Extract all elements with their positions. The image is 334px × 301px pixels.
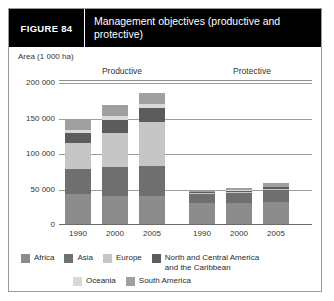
figure-title: Management objectives (productive and pr…	[85, 9, 321, 47]
y-axis-tick-label: 0	[9, 220, 55, 229]
legend-row: AfricaAsiaEuropeNorth and Central Americ…	[21, 253, 309, 272]
bar-segment	[102, 105, 128, 116]
bar-segment	[102, 120, 128, 133]
legend-swatch-icon	[152, 254, 161, 263]
legend-label: Oceania	[86, 276, 116, 286]
figure-container: FIGURE 84 Management objectives (product…	[8, 8, 322, 292]
bar-segment	[65, 143, 91, 169]
bar-segment	[102, 196, 128, 224]
gridline	[59, 83, 312, 84]
bar-productive-2005	[139, 93, 165, 224]
chart-plot: Area (1 000 ha) Productive Protective 05…	[9, 47, 321, 249]
x-axis-tick-label: 2005	[254, 229, 298, 238]
legend-label: North and Central Americaand the Caribbe…	[165, 253, 259, 272]
legend-swatch-icon	[21, 254, 30, 263]
legend-swatch-icon	[64, 254, 73, 263]
bar-segment	[189, 203, 215, 224]
bar-segment	[65, 169, 91, 195]
bar-segment	[226, 203, 252, 224]
bar-segment	[65, 133, 91, 143]
legend-label: South America	[139, 276, 191, 286]
bar-segment	[226, 193, 252, 203]
legend-item: Africa	[21, 253, 54, 263]
legend-item: Europe	[103, 253, 142, 263]
bar-protective-2005	[263, 183, 289, 224]
bar-segment	[102, 167, 128, 196]
legend-swatch-icon	[73, 277, 82, 286]
y-axis-tick-label: 200 000	[9, 78, 55, 87]
bar-productive-1990	[65, 119, 91, 224]
chart-legend: AfricaAsiaEuropeNorth and Central Americ…	[9, 253, 321, 290]
gridline	[59, 154, 312, 155]
group-separator-line	[59, 80, 312, 81]
group-label-protective: Protective	[215, 66, 289, 76]
figure-header: FIGURE 84 Management objectives (product…	[9, 9, 321, 47]
bar-segment	[139, 166, 165, 197]
gridline	[59, 119, 312, 120]
bar-segment	[263, 202, 289, 224]
legend-item: North and Central Americaand the Caribbe…	[152, 253, 259, 272]
legend-item: Oceania	[73, 276, 116, 286]
bar-protective-2000	[226, 188, 252, 224]
legend-item: Asia	[64, 253, 93, 263]
legend-row: OceaniaSouth America	[21, 276, 309, 286]
bar-segment	[139, 108, 165, 121]
bar-segment	[139, 196, 165, 224]
group-label-productive: Productive	[85, 66, 159, 76]
y-axis-tick-label: 150 000	[9, 114, 55, 123]
x-axis-tick-label: 2005	[130, 229, 174, 238]
legend-label: Europe	[116, 253, 142, 263]
bar-segment	[65, 119, 91, 130]
bar-segment	[189, 194, 215, 203]
legend-item: South America	[126, 276, 191, 286]
bar-segment	[102, 133, 128, 166]
bar-protective-1990	[189, 190, 215, 224]
bar-productive-2000	[102, 105, 128, 224]
legend-label: Africa	[34, 253, 54, 263]
legend-swatch-icon	[103, 254, 112, 263]
bar-segment	[139, 122, 165, 166]
y-axis-tick-label: 100 000	[9, 149, 55, 158]
bar-segment	[263, 190, 289, 202]
legend-swatch-icon	[126, 277, 135, 286]
legend-label: Asia	[77, 253, 93, 263]
x-axis-line	[59, 224, 312, 225]
bar-segment	[139, 93, 165, 104]
plot-area: 050 000100 000150 000200 000	[59, 83, 312, 225]
bar-segment	[65, 194, 91, 224]
y-axis-title: Area (1 000 ha)	[18, 52, 74, 61]
figure-number: FIGURE 84	[9, 9, 85, 47]
y-axis-tick-label: 50 000	[9, 185, 55, 194]
